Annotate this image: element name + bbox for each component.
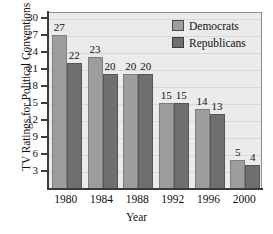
x-tick-label-1996: 1996 [189, 193, 229, 205]
x-tick-label-1984: 1984 [82, 193, 122, 205]
bar-rep-1992 [174, 103, 189, 188]
y-axis-line [47, 11, 49, 190]
legend-swatch-democrats-icon [172, 20, 184, 31]
bar-dem-1984 [88, 57, 103, 188]
y-tick-label: 3 [18, 165, 38, 176]
y-tick-label: 27 [18, 29, 38, 40]
x-tick-label-1992: 1992 [153, 193, 193, 205]
legend-item-republicans: Republicans [172, 36, 246, 49]
y-tick-label: 6 [18, 148, 38, 159]
y-tick-mark [41, 51, 49, 53]
y-tick-label: 30 [18, 12, 38, 23]
y-tick-label: 18 [18, 80, 38, 91]
x-tick-label-1980: 1980 [46, 193, 86, 205]
bar-dem-1992 [159, 103, 174, 188]
y-tick-mark [41, 136, 49, 138]
y-tick-label: 12 [18, 114, 38, 125]
legend-label-republicans: Republicans [189, 37, 246, 49]
legend-item-democrats: Democrats [172, 19, 246, 32]
y-tick-mark [41, 34, 49, 36]
bar-dem-1988 [123, 74, 138, 188]
x-axis-line [47, 188, 263, 190]
x-tick-label-1988: 1988 [117, 193, 157, 205]
bar-rep-1996 [210, 114, 225, 188]
bar-value-rep-1980: 22 [63, 50, 86, 61]
bar-rep-1980 [67, 63, 82, 188]
y-tick-mark [41, 85, 49, 87]
legend: Democrats Republicans [172, 19, 246, 53]
y-tick-label: 15 [18, 97, 38, 108]
y-tick-label: 24 [18, 46, 38, 57]
y-tick-mark [41, 119, 49, 121]
y-tick-mark [41, 102, 49, 104]
bar-value-rep-1992: 15 [170, 90, 193, 101]
bar-dem-2000 [230, 160, 245, 188]
y-tick-mark [41, 153, 49, 155]
x-tick-label-2000: 2000 [224, 193, 264, 205]
bar-rep-1984 [103, 74, 118, 188]
bar-rep-2000 [245, 165, 260, 188]
x-axis-title: Year [0, 211, 273, 223]
legend-swatch-republicans-icon [172, 37, 184, 48]
bar-value-dem-1984: 23 [84, 44, 107, 55]
bar-value-rep-1988: 20 [134, 61, 157, 72]
y-tick-label: 21 [18, 63, 38, 74]
legend-label-democrats: Democrats [189, 20, 239, 32]
bar-value-rep-2000: 4 [241, 152, 264, 163]
bar-chart-figure: TV Ratings for Political Conventions 369… [0, 0, 273, 234]
y-tick-label: 9 [18, 131, 38, 142]
y-tick-mark [41, 170, 49, 172]
bar-value-rep-1984: 20 [99, 61, 122, 72]
y-tick-mark [41, 68, 49, 70]
bar-value-dem-1980: 27 [48, 22, 71, 33]
bar-rep-1988 [138, 74, 153, 188]
bar-dem-1996 [195, 109, 210, 188]
y-tick-mark [41, 17, 49, 19]
bar-value-rep-1996: 13 [206, 101, 229, 112]
